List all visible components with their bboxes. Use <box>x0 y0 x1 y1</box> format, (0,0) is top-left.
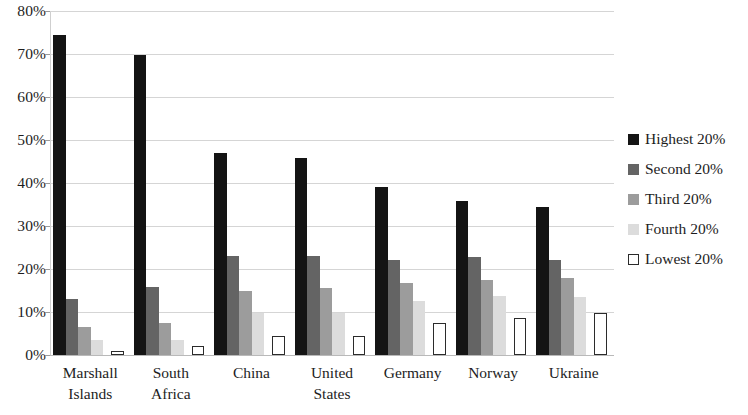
y-tick-label: 40% <box>0 175 46 191</box>
category-label-line1: Marshall <box>63 364 118 381</box>
bar <box>159 323 172 355</box>
category-label: SouthAfrica <box>131 362 212 404</box>
bar <box>214 153 227 355</box>
bar <box>561 278 574 355</box>
bar <box>353 336 366 355</box>
bar <box>456 201 469 355</box>
y-tick-label: 80% <box>0 3 46 19</box>
plot-area <box>50 11 614 355</box>
category-label-line2: States <box>292 383 373 404</box>
legend-label: Second 20% <box>645 161 723 177</box>
y-tick-label: 30% <box>0 218 46 234</box>
bar <box>413 301 426 355</box>
bar <box>146 287 159 355</box>
category-label: MarshallIslands <box>50 362 131 404</box>
bar-group <box>131 11 212 355</box>
category-label-line2: Africa <box>131 383 212 404</box>
legend-item[interactable]: Lowest 20% <box>628 244 748 274</box>
bar <box>239 291 252 355</box>
bar <box>514 318 527 355</box>
legend-item[interactable]: Third 20% <box>628 184 748 214</box>
bar <box>481 280 494 355</box>
legend-swatch-icon <box>628 194 639 205</box>
legend-label: Highest 20% <box>645 131 726 147</box>
category-label-line1: Ukraine <box>549 364 599 381</box>
chart-legend: Highest 20%Second 20%Third 20%Fourth 20%… <box>628 124 748 274</box>
y-tick-label: 60% <box>0 89 46 105</box>
bar-group <box>292 11 373 355</box>
gridline-0 <box>50 355 614 356</box>
bar <box>594 313 607 355</box>
bar <box>272 336 285 355</box>
category-label: China <box>211 362 292 383</box>
legend-item[interactable]: Second 20% <box>628 154 748 184</box>
y-tick-label: 10% <box>0 304 46 320</box>
bar <box>493 296 506 355</box>
legend-swatch-icon <box>628 224 639 235</box>
bar <box>375 187 388 355</box>
y-tick-label: 0% <box>0 347 46 363</box>
bar-group <box>453 11 534 355</box>
bar <box>134 55 147 355</box>
bar-group <box>533 11 614 355</box>
legend-label: Fourth 20% <box>645 221 719 237</box>
bar <box>332 313 345 355</box>
bar <box>192 346 205 355</box>
bar-group <box>211 11 292 355</box>
legend-label: Third 20% <box>645 191 712 207</box>
y-tick-mark <box>45 355 50 356</box>
bar <box>388 260 401 355</box>
y-tick-label: 20% <box>0 261 46 277</box>
x-axis-category-labels: MarshallIslandsSouthAfricaChinaUnitedSta… <box>50 362 614 415</box>
y-tick-label: 70% <box>0 46 46 62</box>
legend-item[interactable]: Highest 20% <box>628 124 748 154</box>
y-tick-label: 50% <box>0 132 46 148</box>
legend-swatch-icon <box>628 164 639 175</box>
bar-chart: 0%10%20%30%40%50%60%70%80% MarshallIslan… <box>0 0 748 415</box>
category-label: Ukraine <box>533 362 614 383</box>
bar <box>53 35 66 355</box>
category-label: Germany <box>372 362 453 383</box>
bar <box>468 257 481 355</box>
category-label-line1: China <box>233 364 270 381</box>
bar <box>295 158 308 355</box>
category-label-line1: Norway <box>468 364 518 381</box>
bar-group <box>372 11 453 355</box>
bar <box>307 256 320 355</box>
category-label-line1: South <box>153 364 189 381</box>
category-label: Norway <box>453 362 534 383</box>
bar <box>252 313 265 355</box>
bar <box>78 327 91 355</box>
y-axis: 0%10%20%30%40%50%60%70%80% <box>0 0 46 365</box>
category-label-line1: United <box>311 364 353 381</box>
legend-item[interactable]: Fourth 20% <box>628 214 748 244</box>
legend-swatch-icon <box>628 134 639 145</box>
category-label-line2: Islands <box>50 383 131 404</box>
bar <box>66 299 79 355</box>
bar <box>536 207 549 355</box>
category-label: UnitedStates <box>292 362 373 404</box>
bar <box>549 260 562 355</box>
bar <box>320 288 333 355</box>
bar <box>91 340 104 355</box>
legend-swatch-icon <box>628 254 639 265</box>
bar <box>227 256 240 355</box>
bar <box>400 283 413 355</box>
bar <box>433 323 446 355</box>
bar <box>171 340 184 355</box>
category-label-line1: Germany <box>384 364 442 381</box>
bar-group <box>50 11 131 355</box>
bar <box>574 297 587 355</box>
legend-label: Lowest 20% <box>645 251 723 267</box>
bar <box>111 351 124 355</box>
